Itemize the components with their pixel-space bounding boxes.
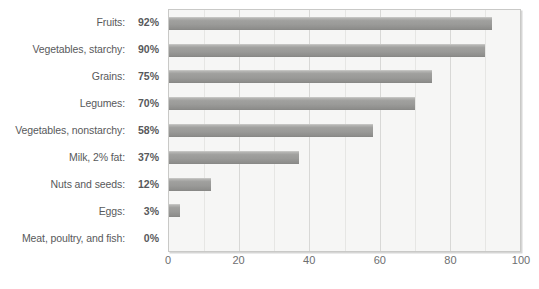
x-tick-label: 20 bbox=[232, 254, 244, 266]
bar-chart-figure: Fruits: 92% Vegetables, starchy: 90% Gra… bbox=[0, 0, 539, 289]
category-label: Nuts and seeds: bbox=[51, 178, 125, 190]
category-value: 92% bbox=[125, 16, 159, 28]
category-label-row: Meat, poultry, and fish: 0% bbox=[0, 224, 163, 251]
bar-row bbox=[169, 10, 520, 37]
x-tick-label: 40 bbox=[303, 254, 315, 266]
category-label: Milk, 2% fat: bbox=[69, 151, 125, 163]
bar-row bbox=[169, 171, 520, 198]
category-label-row: Grains: 75% bbox=[0, 63, 163, 90]
bar-row bbox=[169, 197, 520, 224]
bar bbox=[169, 124, 373, 137]
category-label: Vegetables, nonstarchy: bbox=[15, 124, 125, 136]
bar-row bbox=[169, 64, 520, 91]
category-value: 12% bbox=[125, 178, 159, 190]
bar-row bbox=[169, 144, 520, 171]
category-value: 75% bbox=[125, 70, 159, 82]
caption-sliver bbox=[6, 283, 406, 289]
category-value: 90% bbox=[125, 43, 159, 55]
gridline-major bbox=[520, 10, 521, 251]
category-label-row: Fruits: 92% bbox=[0, 9, 163, 36]
x-tick-label: 100 bbox=[512, 254, 530, 266]
category-label-row: Milk, 2% fat: 37% bbox=[0, 143, 163, 170]
category-value: 58% bbox=[125, 124, 159, 136]
bar-row bbox=[169, 37, 520, 64]
bar bbox=[169, 17, 492, 30]
category-label: Fruits: bbox=[97, 16, 125, 28]
plot-area bbox=[168, 9, 521, 252]
category-label-column: Fruits: 92% Vegetables, starchy: 90% Gra… bbox=[0, 9, 163, 251]
bar bbox=[169, 151, 299, 164]
category-label: Legumes: bbox=[80, 97, 125, 109]
bar-row bbox=[169, 90, 520, 117]
category-value: 70% bbox=[125, 97, 159, 109]
x-tick-label: 60 bbox=[374, 254, 386, 266]
bar-row bbox=[169, 117, 520, 144]
bar-row bbox=[169, 224, 520, 251]
x-tick-label: 80 bbox=[444, 254, 456, 266]
bar bbox=[169, 97, 415, 110]
category-label: Meat, poultry, and fish: bbox=[22, 232, 125, 244]
category-label: Vegetables, starchy: bbox=[32, 43, 125, 55]
x-axis: 020406080100 bbox=[168, 254, 521, 274]
category-label-row: Eggs: 3% bbox=[0, 197, 163, 224]
category-label: Eggs: bbox=[99, 205, 125, 217]
category-label-row: Vegetables, starchy: 90% bbox=[0, 36, 163, 63]
bar-series bbox=[169, 10, 520, 251]
category-label-row: Legumes: 70% bbox=[0, 90, 163, 117]
bar bbox=[169, 204, 180, 217]
category-value: 0% bbox=[125, 232, 159, 244]
category-label-row: Vegetables, nonstarchy: 58% bbox=[0, 117, 163, 144]
category-label: Grains: bbox=[92, 70, 125, 82]
category-value: 37% bbox=[125, 151, 159, 163]
x-tick-label: 0 bbox=[165, 254, 171, 266]
category-label-row: Nuts and seeds: 12% bbox=[0, 170, 163, 197]
bar bbox=[169, 70, 432, 83]
bar bbox=[169, 178, 211, 191]
category-value: 3% bbox=[125, 205, 159, 217]
bar bbox=[169, 44, 485, 57]
